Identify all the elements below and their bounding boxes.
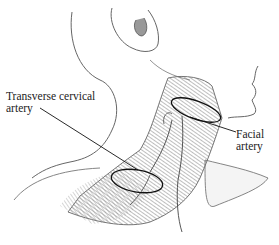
shoulder-right [205, 160, 268, 207]
neck-anatomy-illustration [0, 0, 279, 245]
label-line-1: Facial [236, 128, 264, 140]
transverse-cervical-artery-label: Transverse cervical artery [6, 90, 95, 114]
transverse-cervical-leader [40, 108, 138, 170]
face-profile [228, 66, 258, 118]
label-line-1: Transverse cervical [6, 90, 95, 102]
label-line-2: artery [6, 102, 95, 114]
label-line-2: artery [236, 140, 264, 152]
ear-inner [134, 18, 146, 36]
facial-artery-label: Facial artery [236, 128, 264, 152]
